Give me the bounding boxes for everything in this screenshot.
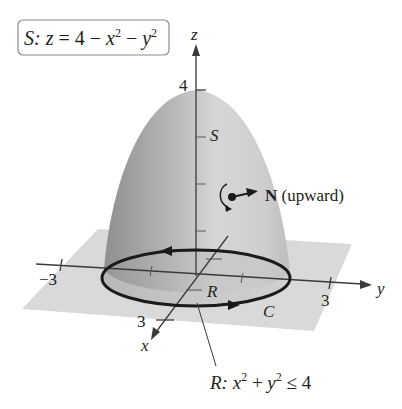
surface-equation: S: z = 4 − x2 − y2 (24, 26, 157, 50)
normal-label: N (upward) (265, 186, 344, 205)
x-tick-label-3: 3 (137, 312, 146, 331)
y-axis-label: y (375, 279, 385, 298)
y-tick-label-3: 3 (321, 291, 330, 310)
y-axis-arrow (360, 280, 372, 289)
curve-marker-c: C (263, 302, 275, 321)
surface-equation-box: S: z = 4 − x2 − y2 (18, 20, 169, 55)
z-axis-arrow (192, 44, 200, 56)
region-marker-r: R (206, 282, 218, 301)
x-axis-label: x (140, 336, 149, 355)
y-tick-label-neg3: −3 (39, 270, 57, 289)
paraboloid-diagram: S: z = 4 − x2 − y2 z 4 S N (upward (0, 0, 402, 409)
z-axis-label: z (190, 25, 198, 44)
surface-marker-s: S (210, 126, 219, 145)
region-equation: R: x2 + y2 ≤ 4 (209, 370, 312, 393)
z-tick-label-4: 4 (179, 76, 188, 95)
